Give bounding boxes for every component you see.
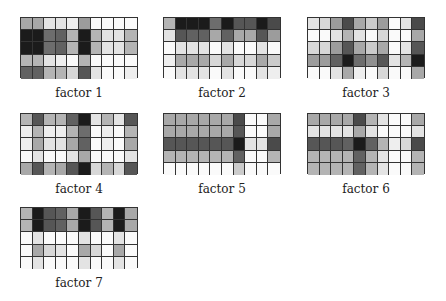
grid-cell <box>21 257 33 269</box>
grid-cell <box>21 18 33 30</box>
grid-cell <box>308 30 320 42</box>
grid-cell <box>102 245 114 257</box>
grid-cell <box>125 126 137 138</box>
grid-cell <box>257 114 269 126</box>
grid-cell <box>401 67 413 79</box>
grid-cell <box>67 30 79 42</box>
grid-cell <box>331 42 343 54</box>
grid-cell <box>114 18 126 30</box>
grid-cell <box>354 151 366 163</box>
grid-cell <box>44 67 56 79</box>
grid-cell <box>331 67 343 79</box>
grid-cell <box>102 67 114 79</box>
grid-cell <box>320 138 332 150</box>
grid-cell <box>245 138 257 150</box>
grid-cell <box>210 151 222 163</box>
grid-cell <box>257 138 269 150</box>
grid-cell <box>125 30 137 42</box>
grid-cell <box>354 18 366 30</box>
grid-cell <box>164 126 176 138</box>
grid-cell <box>389 138 401 150</box>
grid-cell <box>102 55 114 67</box>
grid-cell <box>199 126 211 138</box>
grid-cell <box>21 245 33 257</box>
grid-cell <box>79 30 91 42</box>
grid-cell <box>21 138 33 150</box>
grid-cell <box>210 55 222 67</box>
grid-cell <box>222 151 234 163</box>
grid-cell <box>401 138 413 150</box>
grid-cell <box>210 30 222 42</box>
grid-cell <box>343 126 355 138</box>
grid-cell <box>164 138 176 150</box>
grid-cell <box>234 126 246 138</box>
grid-cell <box>91 30 103 42</box>
grid-cell <box>114 138 126 150</box>
grid-cell <box>412 30 424 42</box>
grid-cell <box>245 55 257 67</box>
grid-cell <box>354 126 366 138</box>
grid-cell <box>125 208 137 220</box>
grid-cell <box>187 151 199 163</box>
grid-cell <box>354 55 366 67</box>
grid-cell <box>21 232 33 244</box>
grid-cell <box>67 257 79 269</box>
grid-cell <box>187 18 199 30</box>
grid-cell <box>91 163 103 175</box>
grid-cell <box>21 30 33 42</box>
grid-cell <box>257 30 269 42</box>
grid-cell <box>125 220 137 232</box>
grid-cell <box>56 18 68 30</box>
grid-cell <box>125 138 137 150</box>
grid-cell <box>102 163 114 175</box>
grid-cell <box>33 257 45 269</box>
grid-cell <box>366 42 378 54</box>
grid-cell <box>320 151 332 163</box>
grid-cell <box>268 55 280 67</box>
grid-cell <box>33 114 45 126</box>
grid-cell <box>114 208 126 220</box>
grid-cell <box>44 257 56 269</box>
grid-cell <box>222 55 234 67</box>
grid-cell <box>234 151 246 163</box>
grid-cell <box>222 30 234 42</box>
grid-cell <box>331 151 343 163</box>
grid-cell <box>102 18 114 30</box>
grid-cell <box>378 151 390 163</box>
factor-label: factor 5 <box>163 182 281 196</box>
grid-cell <box>67 67 79 79</box>
grid-cell <box>187 114 199 126</box>
grid-cell <box>389 163 401 175</box>
grid-cell <box>33 42 45 54</box>
grid-cell <box>199 138 211 150</box>
grid-cell <box>222 18 234 30</box>
grid-cell <box>257 42 269 54</box>
grid-cell <box>56 220 68 232</box>
grid-cell <box>79 42 91 54</box>
grid-cell <box>79 245 91 257</box>
grid-cell <box>268 18 280 30</box>
grid-cell <box>44 245 56 257</box>
grid-cell <box>33 220 45 232</box>
grid-cell <box>401 114 413 126</box>
grid-cell <box>176 55 188 67</box>
grid-cell <box>343 138 355 150</box>
grid-cell <box>245 42 257 54</box>
factor-panel-2: factor 2 <box>163 17 281 100</box>
factor-panel-3: factor 3 <box>307 17 425 100</box>
grid-cell <box>44 30 56 42</box>
factor-panel-4: factor 4 <box>20 113 138 196</box>
grid-cell <box>389 151 401 163</box>
grid-cell <box>114 257 126 269</box>
grid-cell <box>401 55 413 67</box>
grid-cell <box>91 245 103 257</box>
grid-cell <box>56 163 68 175</box>
grid-cell <box>412 163 424 175</box>
grid-cell <box>320 42 332 54</box>
grid-cell <box>91 18 103 30</box>
grid-cell <box>378 67 390 79</box>
factor-label: factor 6 <box>307 182 425 196</box>
grid-cell <box>308 163 320 175</box>
grid-cell <box>21 67 33 79</box>
grid-cell <box>245 151 257 163</box>
